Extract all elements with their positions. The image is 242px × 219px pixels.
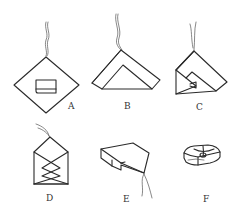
label-b: B <box>124 101 131 111</box>
folding-steps-diagram: A B C D E <box>0 0 242 219</box>
panel-a: A <box>14 22 79 113</box>
panel-e: E <box>101 143 152 204</box>
label-c: C <box>196 102 203 112</box>
label-f: F <box>203 194 209 204</box>
panel-b: B <box>92 14 160 111</box>
label-a: A <box>67 101 75 111</box>
label-d: D <box>46 193 53 203</box>
label-e: E <box>123 194 130 204</box>
panel-d: D <box>34 124 68 203</box>
panel-f: F <box>184 145 220 204</box>
panel-c: C <box>176 22 227 112</box>
